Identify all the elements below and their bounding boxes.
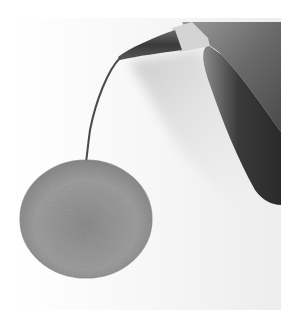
photo-scene	[0, 0, 302, 310]
textured-circle	[20, 160, 152, 278]
photo-canvas	[0, 0, 302, 310]
